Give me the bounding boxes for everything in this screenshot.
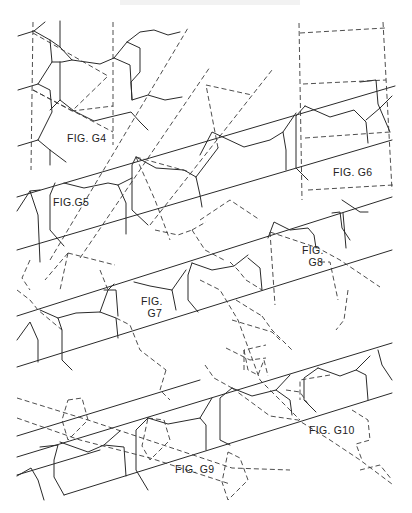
fig-g4-label: FIG. G4 xyxy=(67,132,106,144)
fig-g7-label: FIG. G7 xyxy=(141,295,163,319)
fig-g5-label: FIG.G5 xyxy=(53,196,89,208)
fig-g10-label: FIG. G10 xyxy=(309,424,355,436)
fig-g9-g10-band xyxy=(17,343,392,500)
center-dashed-zigzags xyxy=(155,222,300,420)
fig-g8-label: FIG. G8 xyxy=(302,244,324,268)
fig-g6-label: FIG. G6 xyxy=(333,166,372,178)
fig-g4-drawing xyxy=(18,21,182,170)
drawing-sheet: FIG. G4 FIG.G5 FIG. G6 FIG. G7 FIG. G8 F… xyxy=(0,0,412,513)
figure-drawing xyxy=(0,0,412,513)
fig-g5-g6-band xyxy=(17,80,395,290)
fig-g7-g8-band xyxy=(17,197,392,400)
fig-g9-label: FIG. G9 xyxy=(175,463,214,475)
